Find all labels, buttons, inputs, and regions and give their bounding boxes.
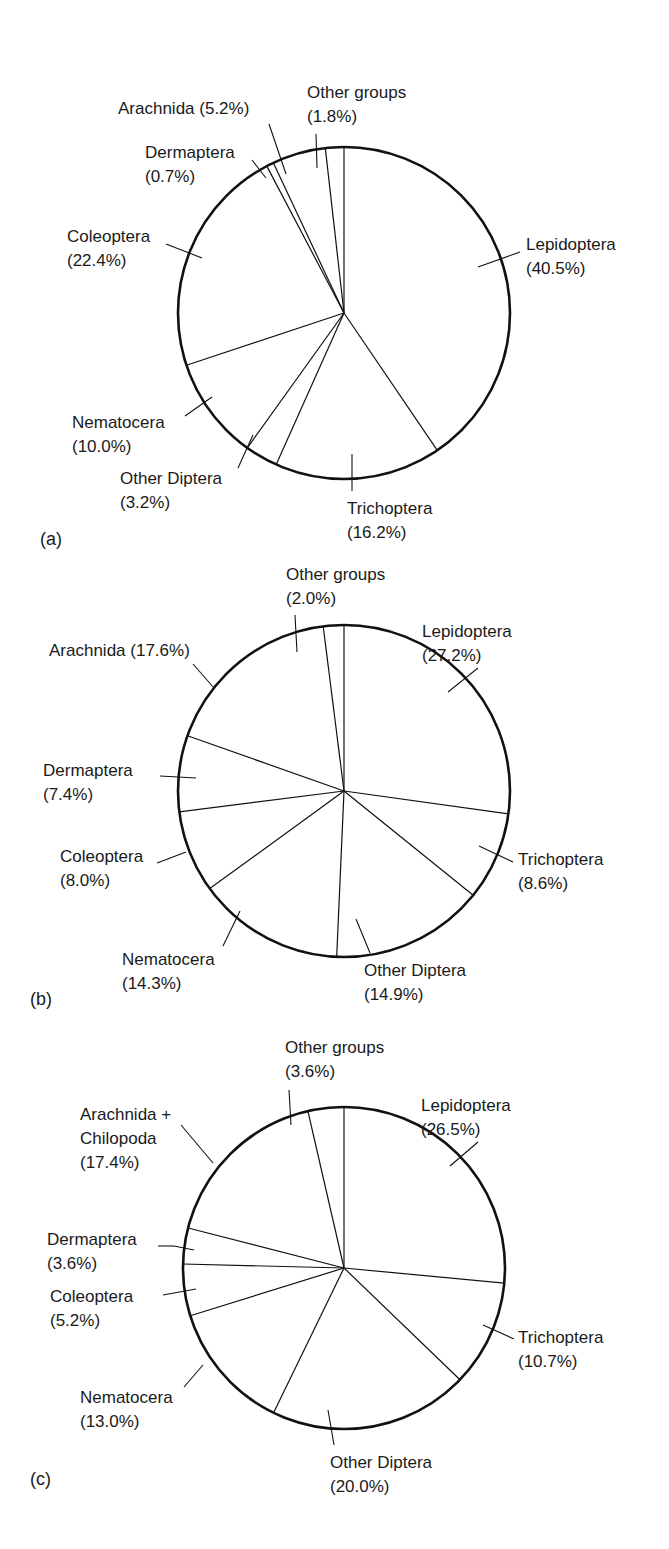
- value-a-trichoptera: (16.2%): [347, 523, 407, 542]
- label-a-other-diptera: Other Diptera: [120, 469, 223, 488]
- value-a-nematocera: (10.0%): [72, 437, 132, 456]
- value-b-nematocera: (14.3%): [122, 974, 182, 993]
- pie-chart-a: Lepidoptera (40.5%) Trichoptera (16.2%) …: [40, 83, 616, 549]
- label-c-chilopoda: Chilopoda: [80, 1129, 157, 1148]
- label-c-coleoptera: Coleoptera: [50, 1287, 134, 1306]
- label-a-coleoptera: Coleoptera: [67, 227, 151, 246]
- leader-b-nematocera: [223, 911, 240, 946]
- value-c-lepidoptera: (26.5%): [421, 1120, 481, 1139]
- label-b-arachnida: Arachnida (17.6%): [49, 641, 190, 660]
- label-b-trichoptera: Trichoptera: [518, 850, 604, 869]
- label-b-dermaptera: Dermaptera: [43, 761, 133, 780]
- label-a-nematocera: Nematocera: [72, 413, 165, 432]
- value-a-dermaptera: (0.7%): [145, 167, 195, 186]
- value-a-other-diptera: (3.2%): [120, 493, 170, 512]
- label-c-dermaptera: Dermaptera: [47, 1230, 137, 1249]
- label-a-lepidoptera: Lepidoptera: [526, 235, 616, 254]
- panel-tag-a: (a): [40, 529, 62, 549]
- leader-c-arachnida: [181, 1125, 213, 1163]
- value-a-other-groups: (1.8%): [307, 107, 357, 126]
- label-c-trichoptera: Trichoptera: [518, 1328, 604, 1347]
- panel-tag-c: (c): [30, 1469, 51, 1489]
- value-c-other-diptera: (20.0%): [330, 1477, 390, 1496]
- panel-tag-b: (b): [30, 989, 52, 1009]
- leader-b-arachnida: [193, 664, 214, 688]
- leader-c-nematocera: [184, 1365, 203, 1387]
- label-a-arachnida: Arachnida (5.2%): [118, 99, 249, 118]
- value-b-other-groups: (2.0%): [286, 589, 336, 608]
- value-c-other-groups: (3.6%): [285, 1062, 335, 1081]
- label-b-other-groups: Other groups: [286, 565, 385, 584]
- value-c-coleoptera: (5.2%): [50, 1311, 100, 1330]
- label-c-other-groups: Other groups: [285, 1038, 384, 1057]
- pie-chart-b: Lepidoptera (27.2%) Trichoptera (8.6%) O…: [30, 565, 604, 1009]
- value-c-dermaptera: (3.6%): [47, 1254, 97, 1273]
- value-b-coleoptera: (8.0%): [60, 871, 110, 890]
- label-c-arachnida: Arachnida +: [80, 1105, 171, 1124]
- label-a-dermaptera: Dermaptera: [145, 143, 235, 162]
- value-b-dermaptera: (7.4%): [43, 785, 93, 804]
- label-c-other-diptera: Other Diptera: [330, 1453, 433, 1472]
- pie-chart-c: Lepidoptera (26.5%) Trichoptera (10.7%) …: [30, 1038, 604, 1496]
- value-b-other-diptera: (14.9%): [364, 985, 424, 1004]
- value-b-lepidoptera: (27.2%): [422, 646, 482, 665]
- value-c-arachnida: (17.4%): [80, 1153, 140, 1172]
- label-a-other-groups: Other groups: [307, 83, 406, 102]
- value-a-lepidoptera: (40.5%): [526, 259, 586, 278]
- label-b-coleoptera: Coleoptera: [60, 847, 144, 866]
- label-c-nematocera: Nematocera: [80, 1388, 173, 1407]
- leader-b-coleoptera: [157, 852, 186, 863]
- value-b-trichoptera: (8.6%): [518, 874, 568, 893]
- value-a-coleoptera: (22.4%): [67, 251, 127, 270]
- label-b-other-diptera: Other Diptera: [364, 961, 467, 980]
- label-b-nematocera: Nematocera: [122, 950, 215, 969]
- pie-chart-figure: Lepidoptera (40.5%) Trichoptera (16.2%) …: [0, 0, 669, 1549]
- label-b-lepidoptera: Lepidoptera: [422, 622, 512, 641]
- label-c-lepidoptera: Lepidoptera: [421, 1096, 511, 1115]
- label-a-trichoptera: Trichoptera: [347, 499, 433, 518]
- value-c-trichoptera: (10.7%): [518, 1352, 578, 1371]
- value-c-nematocera: (13.0%): [80, 1412, 140, 1431]
